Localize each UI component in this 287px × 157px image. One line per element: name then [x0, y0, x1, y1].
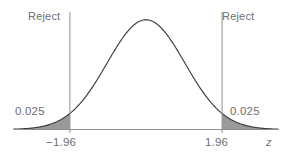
x-tick-label-left: −1.96 — [46, 137, 76, 149]
normal-distribution-chart: Reject Reject 0.025 0.025 −1.96 1.96 z — [0, 0, 287, 157]
x-axis-label: z — [266, 137, 272, 148]
x-tick-label-right: 1.96 — [205, 137, 228, 149]
chart-canvas — [0, 0, 287, 157]
tail-area-label-right: 0.025 — [230, 106, 260, 118]
reject-label-right: Reject — [222, 11, 254, 22]
tail-area-label-left: 0.025 — [15, 106, 45, 118]
reject-label-left: Reject — [28, 11, 60, 22]
